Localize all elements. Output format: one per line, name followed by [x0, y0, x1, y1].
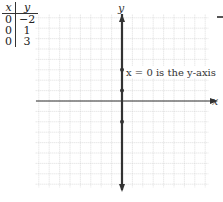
- data-point: [120, 68, 124, 72]
- coordinate-plane: x y x = 0 is the y-axis: [0, 0, 223, 202]
- x-axis-label: x: [212, 95, 219, 108]
- data-point: [120, 120, 124, 124]
- data-point: [120, 89, 124, 93]
- down-arrow-icon: [119, 184, 125, 192]
- margin-mark: [217, 16, 223, 18]
- y-axis-label: y: [117, 2, 125, 15]
- annotation: x = 0 is the y-axis: [126, 67, 216, 78]
